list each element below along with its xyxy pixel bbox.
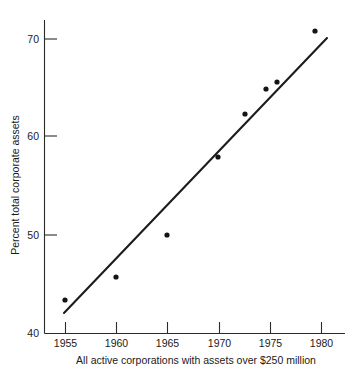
x-tick-label-1980: 1980	[310, 337, 334, 349]
x-tick-label-1960: 1960	[105, 337, 129, 349]
data-point	[274, 79, 279, 84]
trend-line	[64, 38, 327, 313]
x-axis-title: All active corporations with assets over…	[76, 354, 316, 366]
x-tick-label-1975: 1975	[259, 337, 283, 349]
data-point	[113, 274, 118, 279]
y-tick-marks	[45, 39, 58, 235]
y-tick-label-60: 60	[27, 130, 39, 142]
data-point	[164, 232, 169, 237]
y-tick-label-40: 40	[27, 327, 39, 339]
data-point	[263, 86, 268, 91]
y-tick-label-50: 50	[27, 229, 39, 241]
data-point	[312, 28, 317, 33]
y-axis-title: Percent total corporate assets	[9, 115, 21, 255]
x-tick-label-1955: 1955	[54, 337, 78, 349]
data-point	[62, 297, 67, 302]
x-tick-marks	[66, 322, 322, 334]
data-point	[215, 154, 220, 159]
x-tick-label-1970: 1970	[208, 337, 232, 349]
scatter-plot-svg: 70 60 50 40 1955 1960 1965 1970 1975 198…	[0, 0, 356, 371]
x-tick-labels: 1955 1960 1965 1970 1975 1980	[54, 337, 334, 349]
data-point	[242, 111, 247, 116]
x-tick-label-1965: 1965	[156, 337, 180, 349]
data-points-group	[62, 28, 317, 302]
y-tick-label-70: 70	[27, 33, 39, 45]
chart-figure: 70 60 50 40 1955 1960 1965 1970 1975 198…	[0, 0, 356, 371]
y-tick-labels: 70 60 50 40	[27, 33, 39, 339]
